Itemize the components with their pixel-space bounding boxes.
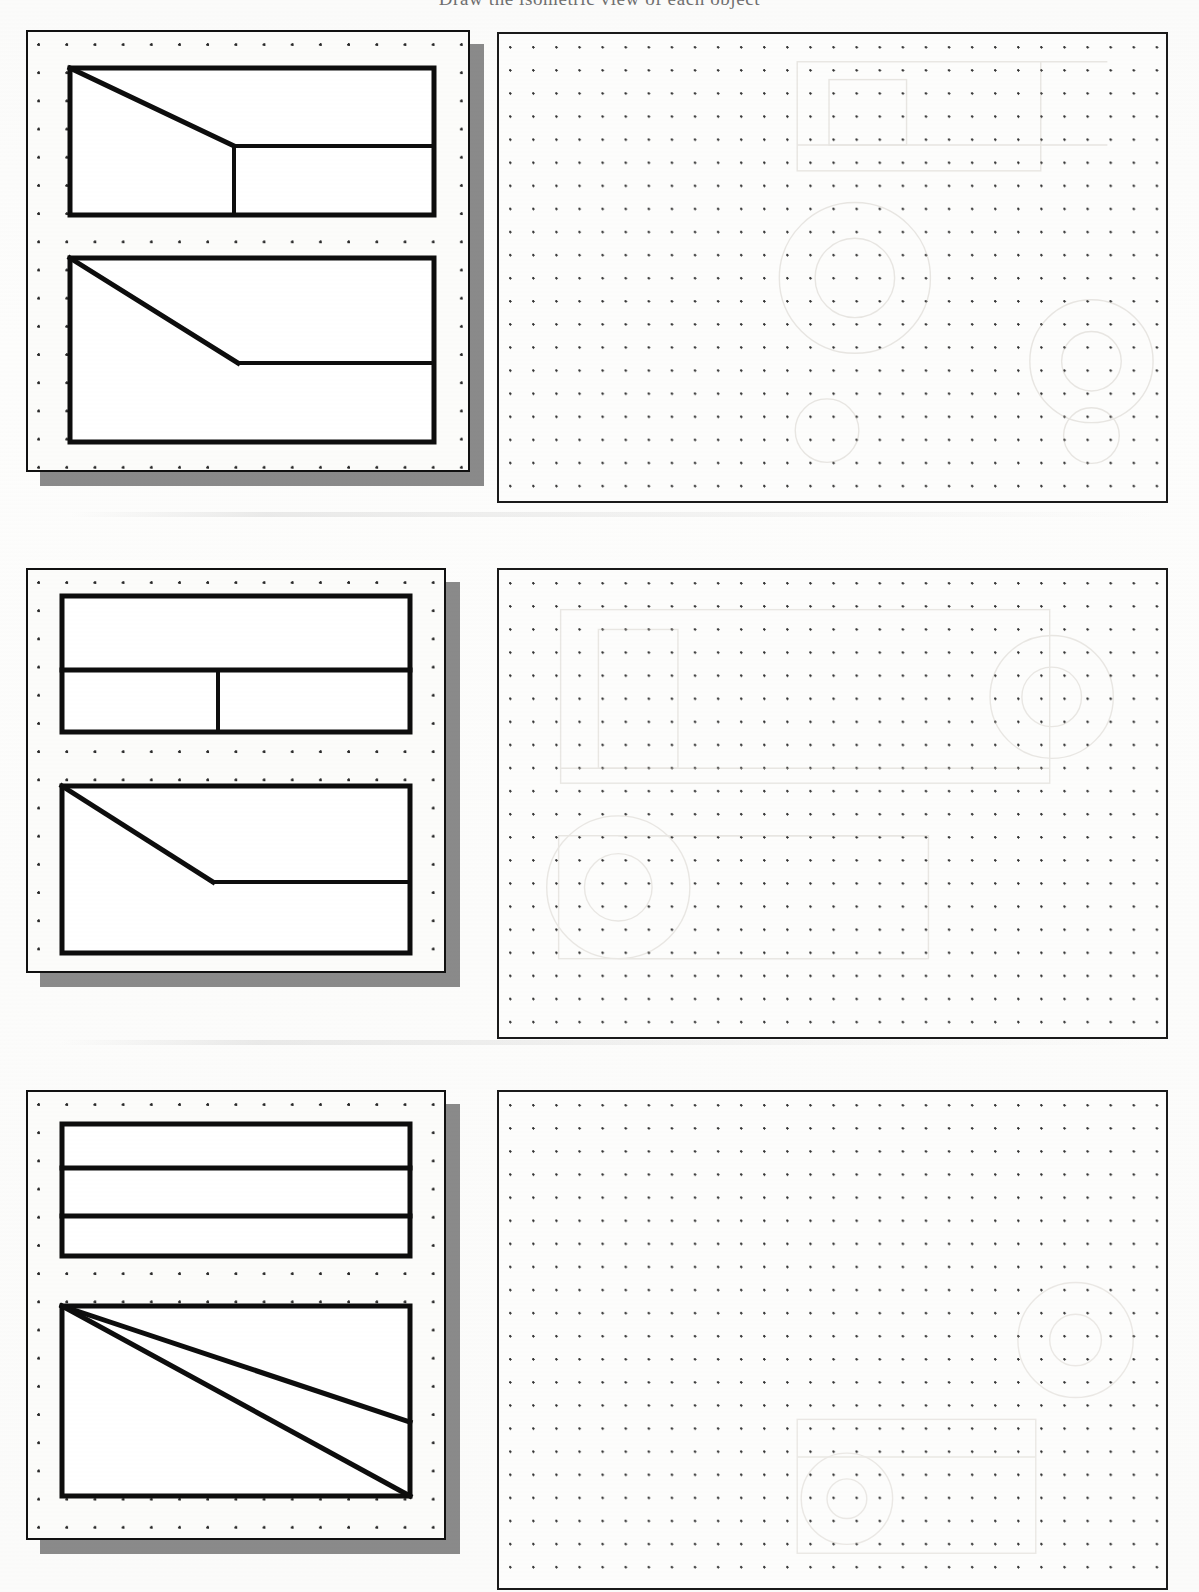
front-view-drawing-2 xyxy=(58,782,414,957)
dot-grid-fine xyxy=(499,1092,1166,1588)
bleed-through-ghost-marks xyxy=(499,34,1166,501)
bleed-through-ghost-marks xyxy=(499,1092,1166,1588)
given-views-card-1[interactable] xyxy=(26,30,470,472)
worksheet-sheet: Draw the isometric view of each object xyxy=(0,0,1199,1592)
bleed-through-ghost-marks xyxy=(499,570,1166,1037)
given-views-card-3[interactable] xyxy=(26,1090,446,1540)
problem-row-3 xyxy=(0,1060,1199,1592)
top-view-drawing-3 xyxy=(58,1120,414,1260)
front-view-drawing-1 xyxy=(66,254,438,446)
isometric-answer-panel-3[interactable] xyxy=(497,1090,1168,1590)
problem-row-1 xyxy=(0,0,1199,530)
top-view-drawing-2 xyxy=(58,592,414,736)
isometric-answer-panel-2[interactable] xyxy=(497,568,1168,1039)
problem-row-2 xyxy=(0,530,1199,1060)
front-view-drawing-3 xyxy=(58,1302,414,1500)
dot-grid-fine xyxy=(499,570,1166,1037)
top-view-drawing-1 xyxy=(66,64,438,219)
isometric-answer-panel-1[interactable] xyxy=(497,32,1168,503)
dot-grid-fine xyxy=(499,34,1166,501)
given-views-card-2[interactable] xyxy=(26,568,446,973)
